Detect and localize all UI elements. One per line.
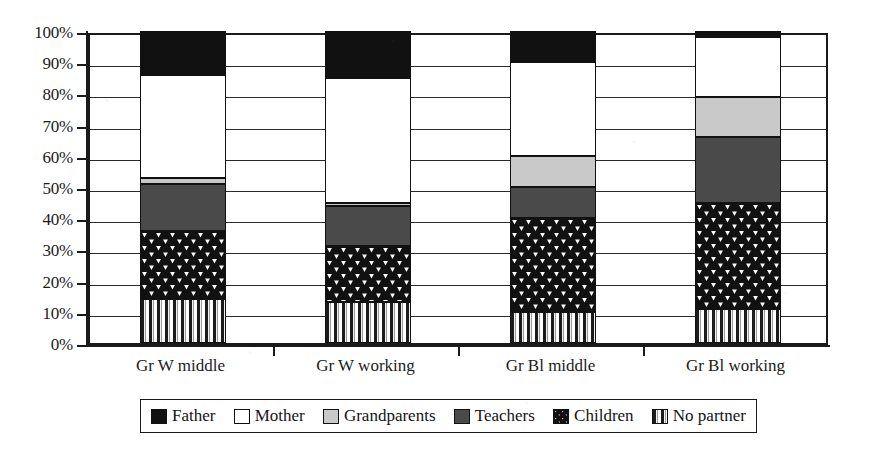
bar-segment-mother bbox=[140, 75, 226, 178]
solid-light-gray-swatch-icon bbox=[323, 409, 339, 424]
y-tick-label: 90% bbox=[3, 55, 73, 72]
bar-segment-mother bbox=[510, 62, 596, 156]
legend-label: No partner bbox=[673, 407, 746, 425]
y-tick-label: 10% bbox=[3, 305, 73, 322]
legend-label: Father bbox=[172, 407, 215, 425]
bar-segment-children bbox=[695, 203, 781, 309]
y-tick-label: 60% bbox=[3, 149, 73, 166]
bar-gr-w-middle bbox=[140, 31, 226, 343]
bar-segment-father bbox=[510, 31, 596, 62]
x-axis-label: Gr W working bbox=[273, 356, 458, 376]
y-tick-label: 30% bbox=[3, 242, 73, 259]
x-tick-mark bbox=[458, 345, 460, 356]
bar-segment-father bbox=[140, 31, 226, 75]
legend-label: Children bbox=[574, 407, 634, 425]
bar-segment-children bbox=[510, 218, 596, 312]
legend-item-mother[interactable]: Mother bbox=[234, 407, 305, 425]
x-tick-mark bbox=[643, 345, 645, 356]
bar-segment-teachers bbox=[325, 206, 411, 247]
y-tick-label: 100% bbox=[3, 24, 73, 41]
y-tick-label: 50% bbox=[3, 180, 73, 197]
plot-area bbox=[88, 33, 828, 345]
bars-group bbox=[90, 35, 826, 343]
x-axis-label: Gr W middle bbox=[88, 356, 273, 376]
bar-segment-children bbox=[325, 246, 411, 302]
y-tick-label: 70% bbox=[3, 118, 73, 135]
stacked-bar-chart: 0%10%20%30%40%50%60%70%80%90%100% Gr W m… bbox=[0, 0, 893, 458]
bar-segment-teachers bbox=[510, 187, 596, 218]
legend-item-teachers[interactable]: Teachers bbox=[454, 407, 535, 425]
bar-segment-teachers bbox=[140, 184, 226, 231]
x-tick-mark bbox=[273, 345, 275, 356]
bar-segment-children bbox=[140, 231, 226, 300]
bar-gr-bl-working bbox=[695, 31, 781, 343]
x-axis-label: Gr Bl working bbox=[643, 356, 828, 376]
legend: FatherMotherGrandparentsTeachersChildren… bbox=[140, 399, 757, 433]
bar-segment-mother bbox=[325, 78, 411, 203]
y-tick-label: 80% bbox=[3, 86, 73, 103]
solid-dark-gray-swatch-icon bbox=[454, 409, 470, 424]
legend-item-father[interactable]: Father bbox=[151, 407, 215, 425]
legend-item-no-partner[interactable]: No partner bbox=[652, 407, 746, 425]
x-axis-label: Gr Bl middle bbox=[458, 356, 643, 376]
bar-segment-father bbox=[695, 31, 781, 37]
solid-white-swatch-icon bbox=[234, 409, 250, 424]
legend-label: Mother bbox=[255, 407, 305, 425]
bar-segment-nopartner bbox=[510, 312, 596, 343]
y-tick-label: 0% bbox=[3, 336, 73, 353]
bar-segment-nopartner bbox=[695, 309, 781, 343]
solid-black-swatch-icon bbox=[151, 409, 167, 424]
bar-segment-grandparents bbox=[140, 178, 226, 184]
bar-segment-grandparents bbox=[325, 203, 411, 206]
y-tick-label: 20% bbox=[3, 274, 73, 291]
bar-segment-teachers bbox=[695, 137, 781, 203]
bar-segment-grandparents bbox=[510, 156, 596, 187]
bar-segment-grandparents bbox=[695, 97, 781, 138]
legend-label: Teachers bbox=[475, 407, 535, 425]
legend-item-children[interactable]: Children bbox=[553, 407, 634, 425]
bar-gr-w-working bbox=[325, 31, 411, 343]
triangle-pattern-swatch-icon bbox=[553, 409, 569, 424]
bar-gr-bl-middle bbox=[510, 31, 596, 343]
legend-item-grandparents[interactable]: Grandparents bbox=[323, 407, 436, 425]
bar-segment-father bbox=[325, 31, 411, 78]
legend-label: Grandparents bbox=[344, 407, 436, 425]
bar-segment-nopartner bbox=[325, 302, 411, 343]
bar-segment-nopartner bbox=[140, 299, 226, 343]
bar-segment-mother bbox=[695, 37, 781, 96]
y-tick-label: 40% bbox=[3, 211, 73, 228]
vertical-stripes-swatch-icon bbox=[652, 409, 668, 424]
